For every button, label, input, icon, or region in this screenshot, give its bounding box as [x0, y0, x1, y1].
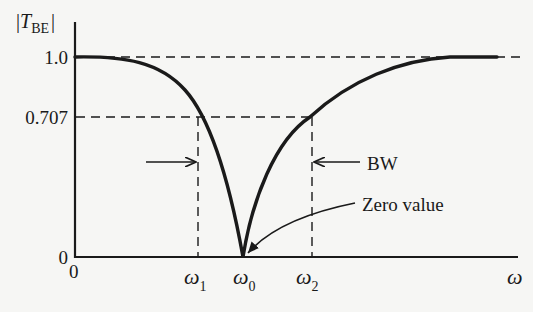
x-tick-omega2: ω2 — [296, 264, 319, 294]
notch-filter-diagram: |TBE| 1.0 0.707 0 0 ω1 ω0 ω2 ω BW Zero v… — [0, 0, 533, 312]
x-tick-omega0: ω0 — [233, 264, 256, 294]
y-tick-1: 1.0 — [44, 47, 68, 68]
reference-lines — [76, 57, 525, 257]
bw-label: BW — [367, 153, 398, 174]
y-axis-label: |TBE| — [16, 10, 55, 36]
zero-value-pointer — [248, 203, 355, 253]
magnitude-curve — [75, 57, 497, 257]
y-tick-0: 0 — [59, 247, 69, 268]
x-axis-label: ω — [507, 264, 523, 289]
x-tick-0: 0 — [69, 261, 79, 282]
y-tick-0707: 0.707 — [25, 107, 68, 128]
zero-value-label: Zero value — [362, 194, 444, 215]
diagram-svg: |TBE| 1.0 0.707 0 0 ω1 ω0 ω2 ω BW Zero v… — [0, 0, 533, 312]
x-tick-omega1: ω1 — [184, 264, 207, 294]
